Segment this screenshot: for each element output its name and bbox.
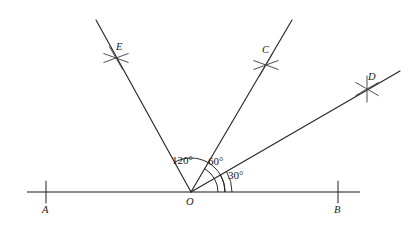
label-point-a: A <box>42 205 48 216</box>
geometry-figure: O A B C D E 120° 60° 30° <box>0 0 420 229</box>
geometry-canvas <box>0 0 420 229</box>
label-point-c: C <box>262 45 269 56</box>
label-angle-60: 60° <box>208 156 223 167</box>
arc-30-inner <box>220 175 225 192</box>
ray-oc <box>191 20 292 192</box>
label-point-b: B <box>334 205 340 216</box>
label-point-o: O <box>186 197 194 208</box>
label-angle-30: 30° <box>228 170 243 181</box>
label-point-e: E <box>116 42 122 53</box>
ray-od <box>191 71 400 192</box>
ray-oe <box>96 20 191 192</box>
label-point-d: D <box>368 72 376 83</box>
label-angle-120: 120° <box>172 155 193 166</box>
cross-c <box>254 54 278 77</box>
